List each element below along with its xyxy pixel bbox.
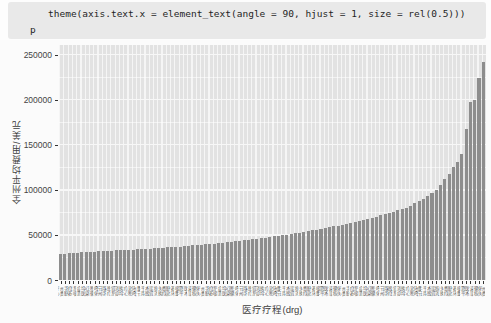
x-tick-mark xyxy=(90,281,91,284)
x-tick-mark xyxy=(385,281,386,284)
bar xyxy=(401,209,404,280)
x-tick-mark xyxy=(406,281,407,284)
bar xyxy=(157,248,160,280)
x-tick-mark xyxy=(189,281,190,284)
x-tick-mark xyxy=(86,281,87,284)
bar xyxy=(196,245,199,280)
x-tick-mark xyxy=(381,281,382,284)
x-tick-mark xyxy=(163,281,164,284)
x-tick-mark xyxy=(347,281,348,284)
x-tick-mark xyxy=(308,281,309,284)
x-axis-title: 医疗疗程(drg) xyxy=(59,302,486,316)
x-tick-mark xyxy=(112,281,113,284)
x-tick-mark xyxy=(389,281,390,284)
x-tick-mark xyxy=(419,281,420,284)
bar xyxy=(260,238,263,280)
x-tick-mark xyxy=(411,281,412,284)
x-tick-mark xyxy=(248,281,249,284)
x-tick-mark xyxy=(342,281,343,284)
bar xyxy=(110,251,113,280)
x-tick-mark xyxy=(325,281,326,284)
bar xyxy=(234,241,237,280)
bar xyxy=(243,240,246,280)
bar xyxy=(482,62,485,280)
bar xyxy=(85,252,88,280)
bar xyxy=(264,238,267,280)
x-tick-mark xyxy=(291,281,292,284)
x-tick-mark xyxy=(338,281,339,284)
bar xyxy=(409,206,412,280)
x-tick-mark xyxy=(201,281,202,284)
x-tick-mark xyxy=(428,281,429,284)
x-tick-mark xyxy=(295,281,296,284)
x-tick-mark xyxy=(180,281,181,284)
y-tick-mark xyxy=(55,280,58,281)
x-tick-mark xyxy=(73,281,74,284)
bar xyxy=(294,233,297,280)
x-tick-mark xyxy=(125,281,126,284)
bar xyxy=(187,246,190,280)
bar xyxy=(226,242,229,280)
x-tick-mark xyxy=(227,281,228,284)
bar xyxy=(392,212,395,280)
x-tick-mark xyxy=(142,281,143,284)
x-tick-mark xyxy=(133,281,134,284)
bar xyxy=(435,190,438,280)
y-tick-mark xyxy=(55,190,58,191)
x-tick-mark xyxy=(214,281,215,284)
x-tick-mark xyxy=(193,281,194,284)
x-tick-mark xyxy=(445,281,446,284)
x-tick-mark xyxy=(65,281,66,284)
bar xyxy=(217,243,220,280)
bar xyxy=(465,129,468,280)
x-tick-mark xyxy=(146,281,147,284)
x-tick-mark xyxy=(351,281,352,284)
bar xyxy=(277,236,280,280)
bar xyxy=(366,219,369,280)
x-tick-mark xyxy=(466,281,467,284)
bar xyxy=(161,248,164,280)
bar xyxy=(388,213,391,280)
x-tick-mark xyxy=(95,281,96,284)
bar xyxy=(230,242,233,280)
bar xyxy=(281,235,284,280)
x-tick-mark xyxy=(479,281,480,284)
code-line-theme: theme(axis.text.x = element_text(angle =… xyxy=(48,6,466,21)
code-cell[interactable]: theme(axis.text.x = element_text(angle =… xyxy=(8,2,486,39)
bar xyxy=(63,254,66,280)
bar xyxy=(115,250,118,280)
bar xyxy=(345,224,348,280)
x-tick-mark xyxy=(206,281,207,284)
bar xyxy=(290,234,293,280)
bar xyxy=(136,249,139,280)
x-tick-mark xyxy=(415,281,416,284)
notebook-output: theme(axis.text.x = element_text(angle =… xyxy=(0,0,491,323)
bar xyxy=(341,225,344,280)
y-tick-label: 0 xyxy=(12,276,52,286)
x-tick-mark xyxy=(240,281,241,284)
bar xyxy=(375,217,378,280)
bar xyxy=(332,226,335,280)
bar xyxy=(59,254,62,280)
x-tick-mark xyxy=(231,281,232,284)
bar xyxy=(183,246,186,280)
x-tick-mark xyxy=(368,281,369,284)
x-tick-mark xyxy=(223,281,224,284)
x-tick-mark xyxy=(458,281,459,284)
y-tick-mark xyxy=(55,235,58,236)
y-tick-label: 250000 xyxy=(12,50,52,60)
x-tick-mark xyxy=(116,281,117,284)
x-tick-mark xyxy=(300,281,301,284)
bar xyxy=(221,243,224,280)
bar xyxy=(473,100,476,280)
bar xyxy=(354,222,357,280)
bar xyxy=(273,236,276,280)
x-tick-mark xyxy=(253,281,254,284)
x-tick-mark xyxy=(462,281,463,284)
x-tick-mark xyxy=(321,281,322,284)
x-tick-mark xyxy=(197,281,198,284)
x-tick-mark xyxy=(394,281,395,284)
x-tick-mark xyxy=(398,281,399,284)
x-tick-mark xyxy=(61,281,62,284)
x-tick-mark xyxy=(103,281,104,284)
